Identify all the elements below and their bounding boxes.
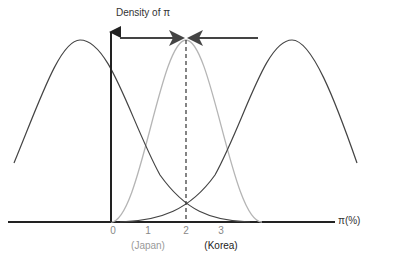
tick-2: 2 — [183, 225, 189, 236]
left-density-curve — [14, 40, 250, 222]
right-density-curve — [120, 40, 357, 222]
x-axis-label: π(%) — [338, 215, 360, 226]
japan-label: (Japan) — [131, 240, 165, 251]
y-axis-label: Density of π — [116, 7, 170, 18]
tick-0: 0 — [110, 225, 116, 236]
tick-3: 3 — [218, 225, 224, 236]
korea-label: (Korea) — [204, 240, 237, 251]
tick-1: 1 — [145, 225, 151, 236]
